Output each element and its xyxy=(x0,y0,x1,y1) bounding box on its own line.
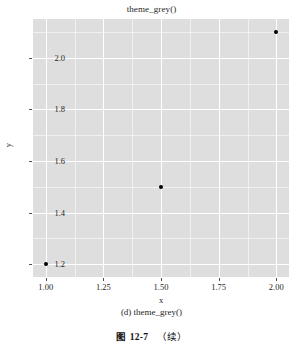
figure-caption-number: 12-7 xyxy=(130,332,149,342)
y-tick-label: 1.6 xyxy=(25,157,65,166)
data-point xyxy=(159,185,163,189)
x-tick-label: 1.25 xyxy=(80,283,126,292)
x-tick-label: 1.75 xyxy=(196,283,242,292)
y-axis-title: y xyxy=(3,138,13,152)
x-tick-label: 1.50 xyxy=(138,283,184,292)
plot-panel xyxy=(33,19,289,277)
y-tick-label: 1.8 xyxy=(25,105,65,114)
x-tick-mark xyxy=(276,278,277,281)
figure-container: theme_grey() 1.2 1.4 1.6 1.8 xyxy=(0,0,303,324)
figure-caption-label: 图 xyxy=(116,331,126,342)
x-tick-mark xyxy=(103,278,104,281)
data-point xyxy=(274,30,278,34)
gridline-major-horizontal xyxy=(33,264,289,265)
y-tick-label: 2.0 xyxy=(25,54,65,63)
chart-title: theme_grey() xyxy=(0,3,303,15)
figure-caption-suffix: （续） xyxy=(157,331,187,342)
sub-caption: (d) theme_grey() xyxy=(0,306,303,318)
x-tick-mark xyxy=(161,278,162,281)
gridline-major-horizontal xyxy=(33,109,289,110)
gridline-major-horizontal xyxy=(33,213,289,214)
gridline-major-horizontal xyxy=(33,161,289,162)
gridline-major-horizontal xyxy=(33,58,289,59)
x-axis-title: x xyxy=(33,295,289,305)
y-tick-label: 1.2 xyxy=(25,260,65,269)
x-tick-mark xyxy=(219,278,220,281)
y-tick-label: 1.4 xyxy=(25,209,65,218)
x-tick-label: 2.00 xyxy=(253,283,299,292)
x-tick-mark xyxy=(46,278,47,281)
x-tick-label: 1.00 xyxy=(23,283,69,292)
figure-caption: 图 12-7 （续） xyxy=(0,330,303,344)
